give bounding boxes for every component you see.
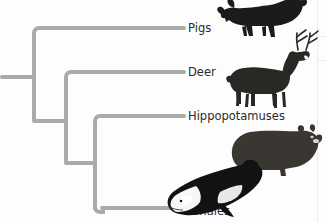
cladogram-figure: Pigs Deer Hippopotamuses Whales xyxy=(0,0,327,222)
branch-tip-hippos xyxy=(100,114,186,118)
orca-whale-icon xyxy=(158,160,278,218)
deer-icon xyxy=(224,28,324,110)
taxon-label-hippos: Hippopotamuses xyxy=(188,110,285,122)
branch-node3-vertical xyxy=(93,120,97,210)
branch-root-stem xyxy=(0,75,36,79)
branch-tip-pigs xyxy=(39,26,186,30)
branch-tip-deer xyxy=(71,70,186,74)
branch-node2-vertical xyxy=(64,76,68,163)
taxon-label-deer: Deer xyxy=(188,66,216,78)
branch-node-root-to-node2 xyxy=(32,119,68,123)
taxon-label-pigs: Pigs xyxy=(188,22,211,34)
branch-node-root-vertical xyxy=(32,32,36,121)
